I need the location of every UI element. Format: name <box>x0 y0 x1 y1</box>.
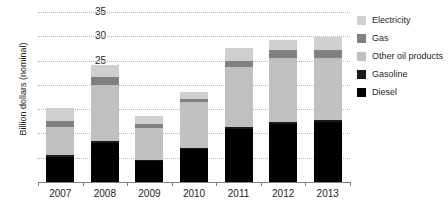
bar-segment-other-oil-products <box>269 58 297 122</box>
legend-label: Gas <box>372 33 389 43</box>
bar-2013[interactable] <box>314 37 342 182</box>
bar-segment-electricity <box>314 37 342 50</box>
bar-2012[interactable] <box>269 40 297 182</box>
x-tick-label-2012: 2012 <box>261 188 305 199</box>
legend-swatch-icon <box>357 70 366 79</box>
bar-segment-electricity <box>180 92 208 99</box>
bar-segment-electricity <box>91 65 119 77</box>
x-axis-tickmark <box>305 182 306 186</box>
legend-swatch-icon <box>357 16 366 25</box>
bar-segment-other-oil-products <box>91 85 119 141</box>
x-tick-label-2008: 2008 <box>83 188 127 199</box>
legend-item-other-oil-products[interactable]: Other oil products <box>357 47 447 65</box>
bar-segment-other-oil-products <box>314 58 342 120</box>
bar-segment-other-oil-products <box>225 67 253 127</box>
bar-segment-gas <box>269 50 297 58</box>
x-tick-label-2011: 2011 <box>217 188 261 199</box>
x-axis-line <box>38 182 350 183</box>
x-axis-tickmark <box>261 182 262 186</box>
x-tick-label-2013: 2013 <box>306 188 350 199</box>
bar-segment-diesel <box>225 129 253 182</box>
bar-segment-gas <box>314 50 342 58</box>
legend-item-gas[interactable]: Gas <box>357 29 447 47</box>
bar-segment-gas <box>91 77 119 85</box>
bar-segment-diesel <box>269 124 297 182</box>
gridline <box>38 85 350 87</box>
x-tick-label-2007: 2007 <box>38 188 82 199</box>
x-tick-label-2010: 2010 <box>172 188 216 199</box>
x-axis-tickmark <box>38 182 39 186</box>
legend-label: Electricity <box>372 15 411 25</box>
bar-segment-electricity <box>46 108 74 122</box>
bar-segment-other-oil-products <box>46 127 74 156</box>
legend-label: Other oil products <box>372 51 443 61</box>
legend-swatch-icon <box>357 34 366 43</box>
y-axis-title: Billion dollars (nominal) <box>18 19 28 159</box>
bar-segment-electricity <box>225 48 253 60</box>
chart-legend: ElectricityGasOther oil productsGasoline… <box>357 11 447 101</box>
legend-item-diesel[interactable]: Diesel <box>357 83 447 101</box>
bar-segment-diesel <box>91 143 119 182</box>
legend-label: Diesel <box>372 87 397 97</box>
bar-2009[interactable] <box>135 116 163 182</box>
bar-2010[interactable] <box>180 92 208 182</box>
legend-item-electricity[interactable]: Electricity <box>357 11 447 29</box>
x-axis-tickmark <box>83 182 84 186</box>
x-axis-tickmark <box>350 182 351 186</box>
x-axis-tickmark <box>216 182 217 186</box>
x-axis-tickmark <box>127 182 128 186</box>
bar-segment-diesel <box>135 161 163 182</box>
legend-swatch-icon <box>357 52 366 61</box>
x-tick-label-2009: 2009 <box>127 188 171 199</box>
bar-segment-other-oil-products <box>135 128 163 160</box>
bar-segment-diesel <box>180 149 208 182</box>
bar-2008[interactable] <box>91 65 119 182</box>
bar-segment-diesel <box>46 157 74 182</box>
bar-2007[interactable] <box>46 108 74 182</box>
legend-swatch-icon <box>357 88 366 97</box>
x-axis-tickmark <box>172 182 173 186</box>
bar-segment-diesel <box>314 122 342 182</box>
stacked-bar-chart: Billion dollars (nominal) 5101520253035 … <box>0 0 448 209</box>
bar-segment-electricity <box>135 116 163 124</box>
plot-area <box>38 12 350 182</box>
bar-segment-other-oil-products <box>180 102 208 148</box>
legend-item-gasoline[interactable]: Gasoline <box>357 65 447 83</box>
bar-segment-electricity <box>269 40 297 51</box>
bar-2011[interactable] <box>225 48 253 182</box>
gridline <box>38 61 350 63</box>
gridline <box>38 12 350 14</box>
legend-label: Gasoline <box>372 69 408 79</box>
gridline <box>38 36 350 38</box>
